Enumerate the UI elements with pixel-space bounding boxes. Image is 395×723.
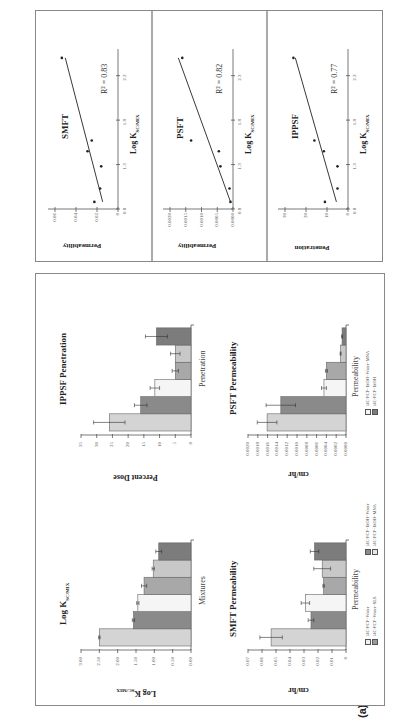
smft-scatter-title: SMFT xyxy=(60,114,70,139)
ippsf-scatter-plot: 0.81.31.82.30102030IPPSFR² = 0.77Log KSC… xyxy=(266,11,381,261)
psft-scatter-plot: 0.81.31.82.30.00000.00050.00100.00150.00… xyxy=(151,11,266,261)
smft-perm-xlabel: Permeability xyxy=(351,569,360,610)
x-tick-label: 0.8 xyxy=(352,208,357,214)
x-axis-label: Log KSC/MIX xyxy=(359,114,370,154)
data-point xyxy=(336,187,339,190)
x-tick-label: 0.8 xyxy=(237,208,242,214)
data-point xyxy=(324,201,327,204)
y-tick-label: 0.0014 xyxy=(274,442,279,468)
y-tick-label: 0.0012 xyxy=(284,442,289,468)
x-tick-label: 1.3 xyxy=(122,163,127,169)
bar xyxy=(341,345,346,362)
y-tick-label: 0.0010 xyxy=(294,442,299,468)
smft-perm-ylabel: cm/hr xyxy=(288,686,308,695)
y-tick-label: 0.0020 xyxy=(167,213,172,239)
data-point xyxy=(219,165,222,168)
legend-swatch xyxy=(372,549,378,555)
r-squared-label: R² = 0.77 xyxy=(330,64,339,94)
divider xyxy=(266,11,268,261)
legend-item: 14C-PCP+EtOH+MNA xyxy=(371,504,378,555)
figure-stage: (a) Log KSC/MIXIPPSF PenetrationSMFT Per… xyxy=(0,0,395,723)
data-point xyxy=(292,57,295,60)
panel-b: 0.81.31.82.300.020.040.06SMFTR² = 0.83Lo… xyxy=(35,10,383,262)
ippsf-pen-ylabel: Percent Dose xyxy=(113,473,158,482)
panel-a-label: (a) xyxy=(356,705,368,718)
bar xyxy=(324,379,346,396)
data-point xyxy=(86,150,89,153)
psft-perm-chart: 0.00000.00020.00040.00060.00080.00100.00… xyxy=(36,274,384,705)
data-point xyxy=(228,187,231,190)
x-tick-label: 1.8 xyxy=(352,119,357,125)
ippsf-pen-xlabel: Penetration xyxy=(198,351,207,387)
x-tick-label: 0.8 xyxy=(122,208,127,214)
legend-item: 14C-PCP+EtOH+Water+MNA xyxy=(364,351,371,415)
x-axis-label: Log KSC/MIX xyxy=(244,114,255,154)
y-tick-label: 0.0005 xyxy=(214,213,219,239)
legend-label: 14C-PCP+EtOH+Water+MNA xyxy=(365,351,370,407)
y-axis-label: Permeability xyxy=(178,242,217,250)
r-squared-label: R² = 0.82 xyxy=(215,64,224,94)
bar xyxy=(326,362,346,379)
y-tick-label: 0.04 xyxy=(73,213,78,239)
legend-label: 14C-PCP+EtOH xyxy=(372,377,377,407)
y-tick-label: 0.0000 xyxy=(230,213,235,239)
data-point xyxy=(100,165,103,168)
y-tick-label: 0 xyxy=(345,213,350,239)
log-k-xlabel: Mixtures xyxy=(198,576,207,605)
psft-perm-xlabel: Permeability xyxy=(351,356,360,397)
y-tick-label: 10 xyxy=(324,213,329,239)
y-tick-label: 0.0004 xyxy=(323,442,328,468)
smft-scatter-plot: 0.81.31.82.300.020.040.06SMFTR² = 0.83Lo… xyxy=(36,11,151,261)
data-point xyxy=(218,150,221,153)
legend-item: 14C-PCP+EtOH xyxy=(371,351,378,415)
data-point xyxy=(323,150,326,153)
psft-perm-ylabel: cm/hr xyxy=(288,470,308,479)
ippsf-scatter-title: IPPSF xyxy=(290,114,300,139)
y-tick-label: 0.0018 xyxy=(255,442,260,468)
y-tick-label: 0.0016 xyxy=(265,442,270,468)
data-point xyxy=(336,165,339,168)
bar xyxy=(267,414,346,431)
r-squared-label: R² = 0.83 xyxy=(100,64,109,94)
psft-scatter-title: PSFT xyxy=(175,117,185,139)
y-tick-label: 0.0006 xyxy=(314,442,319,468)
legend-swatch xyxy=(372,639,378,645)
x-tick-label: 1.3 xyxy=(237,163,242,169)
x-tick-label: 1.8 xyxy=(122,119,127,125)
legend-item: 14C-PCP+Water xyxy=(364,597,371,645)
y-tick-label: 0 xyxy=(115,213,120,239)
y-tick-label: 30 xyxy=(282,213,287,239)
y-tick-label: 0.06 xyxy=(52,213,57,239)
data-point xyxy=(190,139,193,142)
divider xyxy=(151,11,153,261)
y-tick-label: 20 xyxy=(303,213,308,239)
legend-label: 14C-PCP+EtOH+Water xyxy=(365,504,370,547)
y-tick-label: 0.0000 xyxy=(343,442,348,468)
y-axis-label: Penetration xyxy=(295,244,330,252)
legend-label: 14C-PCP+Water+SLS xyxy=(372,597,377,637)
data-point xyxy=(93,201,96,204)
x-tick-label: 2.3 xyxy=(122,74,127,80)
legend-item: 14C-PCP+EtOH+Water xyxy=(364,504,371,555)
legend-label: 14C-PCP+EtOH+MNA xyxy=(372,504,377,547)
x-tick-label: 1.8 xyxy=(237,119,242,125)
y-tick-label: 0.0010 xyxy=(199,213,204,239)
log-k-ylabel: Log KSC/MIX xyxy=(116,688,156,699)
y-tick-label: 0.0002 xyxy=(333,442,338,468)
y-tick-label: 0.02 xyxy=(94,213,99,239)
y-axis-label: Permeability xyxy=(63,242,102,250)
panel-a: Log KSC/MIXIPPSF PenetrationSMFT Permeab… xyxy=(35,273,385,706)
x-tick-label: 2.3 xyxy=(237,74,242,80)
x-axis-label: Log KSC/MIX xyxy=(129,114,140,154)
x-tick-label: 1.3 xyxy=(352,163,357,169)
data-point xyxy=(313,139,316,142)
x-tick-label: 2.3 xyxy=(352,74,357,80)
data-point xyxy=(90,139,93,142)
legend-item: 14C-PCP+Water+SLS xyxy=(371,597,378,645)
y-tick-label: 0.0008 xyxy=(304,442,309,468)
legend-label: 14C-PCP+Water xyxy=(365,607,370,637)
legend-swatch xyxy=(372,409,378,415)
data-point xyxy=(61,57,64,60)
y-tick-label: 0.0020 xyxy=(245,442,250,468)
data-point xyxy=(181,57,184,60)
